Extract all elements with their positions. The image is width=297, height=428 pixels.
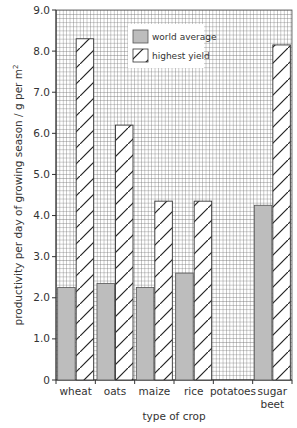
legend-swatch-highest-yield	[133, 49, 148, 62]
bar-world-average	[97, 283, 115, 380]
bar-world-average	[254, 205, 271, 380]
legend-swatch-world-average	[133, 30, 148, 43]
y-tick-label: 9.0	[33, 4, 50, 16]
legend-label-highest-yield: highest yield	[152, 51, 210, 61]
category-label: wheat	[60, 385, 92, 397]
y-tick-label: 2.0	[33, 291, 50, 303]
y-tick-label: 5.0	[33, 168, 50, 180]
category-label: maize	[139, 385, 171, 397]
x-axis: wheatoatsmaizericepotatoessugarbeet	[56, 380, 292, 410]
category-label: beet	[260, 398, 284, 410]
bar-highest-yield	[76, 39, 94, 380]
bar-world-average	[176, 273, 194, 380]
bar-world-average	[58, 288, 76, 381]
category-label: sugar	[258, 385, 288, 397]
y-tick-label: 3.0	[33, 250, 50, 262]
y-tick-label: 7.0	[33, 86, 50, 98]
bar-highest-yield	[155, 201, 173, 380]
category-label: rice	[184, 385, 203, 397]
y-axis-title: productivity per day of growing season /…	[12, 65, 24, 326]
y-tick-label: 1.0	[33, 332, 50, 344]
bar-world-average	[136, 288, 154, 381]
y-tick-label: 4.0	[33, 209, 50, 221]
y-tick-label: 8.0	[33, 45, 50, 57]
legend: world averagehighest yield	[128, 24, 217, 68]
bar-highest-yield	[116, 125, 134, 380]
legend-label-world-average: world average	[152, 32, 217, 42]
x-axis-title: type of crop	[142, 410, 206, 422]
y-tick-label: 6.0	[33, 127, 50, 139]
bar-highest-yield	[194, 201, 212, 380]
y-tick-label: 0	[43, 374, 50, 386]
category-label: potatoes	[210, 385, 256, 397]
y-axis: 01.02.03.04.05.06.07.08.09.0	[33, 4, 56, 386]
bar-chart: 01.02.03.04.05.06.07.08.09.0 wheatoatsma…	[0, 0, 297, 428]
bar-highest-yield	[273, 45, 291, 380]
category-label: oats	[104, 385, 126, 397]
